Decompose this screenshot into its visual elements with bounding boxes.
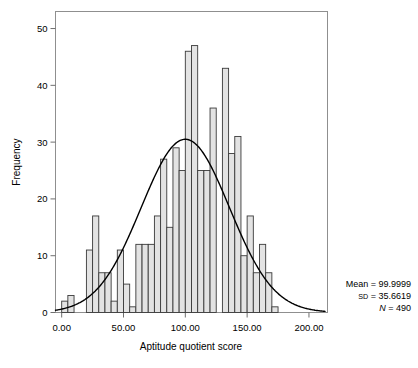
- mean-annotation: Mean = 99.9999: [346, 279, 411, 289]
- histogram-bar: [241, 256, 247, 313]
- histogram-bar: [130, 307, 136, 313]
- y-tick-label: 20: [37, 193, 48, 204]
- y-axis-title: Frequency: [11, 138, 22, 185]
- x-tick-label: 50.00: [112, 322, 136, 333]
- histogram-bar: [272, 307, 278, 313]
- histogram-bar: [210, 108, 216, 312]
- sd-annotation-prefix: SD: [358, 292, 368, 301]
- histogram-bar: [204, 171, 210, 313]
- histogram-bar: [111, 301, 117, 312]
- x-tick-label: 200.00: [294, 322, 323, 333]
- histogram-bar: [222, 68, 228, 312]
- x-tick-label: 100.00: [171, 322, 200, 333]
- histogram-bar: [253, 273, 259, 313]
- histogram-bar: [124, 284, 130, 312]
- histogram-bar: [154, 216, 160, 313]
- histogram-bar: [235, 136, 241, 312]
- histogram-bar: [68, 295, 74, 312]
- histogram-bar: [161, 159, 167, 312]
- histogram-bar: [86, 250, 92, 312]
- y-tick-label: 50: [37, 23, 48, 34]
- y-tick-label: 10: [37, 250, 48, 261]
- n-annotation: N = 490: [379, 303, 411, 313]
- histogram-bar: [142, 244, 148, 312]
- sd-annotation-value: = 35.6619: [368, 291, 411, 301]
- histogram-bar: [99, 273, 105, 313]
- histogram-figure: 01020304050 0.0050.00100.00150.00200.00 …: [0, 0, 418, 368]
- y-tick-label: 40: [37, 80, 48, 91]
- histogram-bar: [173, 148, 179, 313]
- x-tick-label: 150.00: [233, 322, 262, 333]
- histogram-bar: [266, 273, 272, 313]
- histogram-bar: [136, 244, 142, 312]
- histogram-bar: [62, 301, 68, 312]
- x-axis-title: Aptitude quotient score: [140, 341, 243, 352]
- sd-annotation: SD = 35.6619: [358, 291, 411, 301]
- histogram-bar: [198, 171, 204, 313]
- histogram-bar: [185, 51, 191, 312]
- histogram-bar: [148, 244, 154, 312]
- y-tick-label: 30: [37, 137, 48, 148]
- histogram-bar: [167, 227, 173, 312]
- histogram-bar: [179, 171, 185, 313]
- histogram-bar: [247, 216, 253, 313]
- n-annotation-value: = 490: [386, 303, 411, 313]
- histogram-bar: [229, 153, 235, 312]
- histogram-bar: [93, 216, 99, 313]
- x-tick-label: 0.00: [52, 322, 71, 333]
- y-tick-label: 0: [42, 307, 47, 318]
- histogram-bar: [192, 46, 198, 313]
